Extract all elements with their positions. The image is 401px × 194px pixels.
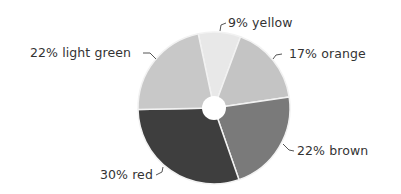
leader-line-red: [156, 167, 163, 175]
label-brown: 22% brown: [297, 144, 368, 158]
pie-chart: [0, 0, 401, 194]
label-orange: 17% orange: [289, 47, 366, 61]
leader-line-light-green: [143, 53, 156, 59]
label-light-green: 22% light green: [30, 46, 131, 60]
leader-line-yellow: [220, 23, 226, 31]
leader-line-orange: [273, 54, 282, 59]
leader-line-brown: [283, 144, 294, 151]
label-yellow: 9% yellow: [228, 16, 293, 30]
label-red: 30% red: [100, 168, 153, 182]
donut-hole: [202, 96, 226, 120]
